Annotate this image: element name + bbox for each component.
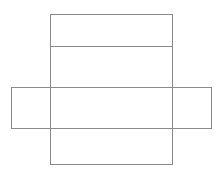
diagram-canvas — [0, 0, 222, 172]
vertical-rect-shape — [51, 15, 173, 165]
box-net-diagram — [0, 0, 222, 172]
horizontal-rect-shape — [12, 88, 212, 129]
